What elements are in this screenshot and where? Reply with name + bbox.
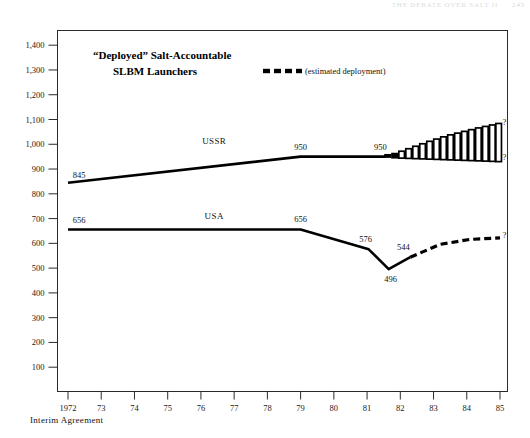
point-label-576-2: 576 [359, 234, 372, 244]
ussr-uncertainty-band [385, 123, 502, 161]
y-tick-label-700: 700 [32, 214, 45, 224]
series-label-usa: USA [205, 211, 224, 221]
y-tick-label-1000: 1,000 [25, 139, 44, 149]
series-name-labels: USSRUSA [202, 136, 226, 220]
uncertainty-bar-1 [392, 153, 398, 157]
x-tick-label-1979: 79 [296, 403, 305, 413]
point-label-950-1: 950 [294, 142, 307, 152]
uncertainty-bar-7 [434, 139, 440, 159]
point-label-656-1: 656 [294, 214, 307, 224]
uncertainty-bar-11 [462, 131, 468, 160]
chart-title-line1: “Deployed” Salt-Accountable [93, 49, 232, 61]
y-tick-label-800: 800 [32, 189, 45, 199]
point-label-544-4: 544 [397, 242, 411, 252]
x-tick-label-1975: 75 [163, 403, 172, 413]
plot-frame [58, 31, 508, 392]
x-tick-label-1972: 1972 [60, 403, 77, 413]
legend-label-estimated-deployment: (estimated deployment) [305, 66, 386, 76]
legend: (estimated deployment) [263, 66, 386, 76]
point-label-950-2: 950 [374, 142, 387, 152]
x-tick-label-1974: 74 [130, 403, 139, 413]
uncertainty-bar-5 [420, 144, 426, 159]
uncertainty-bar-4 [413, 146, 419, 158]
uncertainty-bar-0 [385, 155, 391, 157]
y-axis-ticks [49, 45, 58, 367]
uncertainty-bar-2 [399, 151, 405, 158]
uncertainty-bar-13 [476, 128, 482, 161]
x-tick-label-1980: 80 [330, 403, 339, 413]
uncertainty-bar-10 [455, 133, 461, 160]
x-tick-label-1984: 84 [463, 403, 472, 413]
x-tick-label-1977: 77 [230, 403, 239, 413]
data-series-group [68, 157, 500, 269]
chart-annotations: ??? [503, 117, 507, 240]
y-tick-label-600: 600 [32, 238, 45, 248]
slbm-launchers-chart: 1002003004005006007008009001,0001,1001,2… [0, 0, 530, 438]
chart-title-line2: SLBM Launchers [113, 65, 198, 77]
x-tick-label-1982: 82 [396, 403, 405, 413]
uncertainty-bar-9 [448, 135, 454, 160]
x-tick-label-1983: 83 [429, 403, 438, 413]
y-tick-label-1100: 1,100 [25, 115, 44, 125]
y-tick-label-100: 100 [32, 362, 45, 372]
figure-root: THE DEBATE OVER SALT II245 1002003004005… [0, 0, 530, 438]
y-tick-label-500: 500 [32, 263, 45, 273]
uncertainty-bar-16 [496, 123, 502, 161]
y-tick-label-900: 900 [32, 164, 45, 174]
y-axis-labels: 1002003004005006007008009001,0001,1001,2… [25, 40, 44, 372]
uncertainty-bar-8 [441, 137, 447, 160]
series-line-usa-estimated [410, 238, 500, 257]
usa-question: ? [503, 230, 507, 240]
uncertainty-bar-6 [427, 141, 433, 159]
x-tick-label-1978: 78 [263, 403, 272, 413]
y-tick-label-1400: 1,400 [25, 40, 44, 50]
uncertainty-bar-14 [483, 126, 489, 161]
footnote-interim-agreement: Interim Agreement [30, 415, 104, 425]
y-tick-label-200: 200 [32, 337, 45, 347]
x-tick-label-1973: 73 [97, 403, 106, 413]
point-label-656-0: 656 [73, 215, 86, 225]
x-tick-label-1985: 85 [496, 403, 505, 413]
x-axis-ticks [68, 392, 500, 400]
ussr-upper-question: ? [503, 117, 507, 127]
y-tick-label-1200: 1,200 [25, 90, 44, 100]
uncertainty-bar-3 [406, 149, 412, 159]
y-tick-label-1300: 1,300 [25, 65, 44, 75]
x-tick-label-1981: 81 [363, 403, 372, 413]
x-tick-label-1976: 76 [197, 403, 206, 413]
series-label-ussr: USSR [202, 136, 226, 146]
ussr-lower-question: ? [503, 152, 507, 162]
y-tick-label-400: 400 [32, 288, 45, 298]
point-label-496-3: 496 [384, 274, 397, 284]
point-label-845-0: 845 [73, 170, 86, 180]
uncertainty-bar-15 [490, 125, 496, 161]
x-axis-labels: 197273747576777879808182838485 [60, 403, 505, 413]
y-tick-label-300: 300 [32, 313, 45, 323]
series-line-ussr [68, 157, 385, 183]
uncertainty-bar-12 [469, 130, 475, 161]
